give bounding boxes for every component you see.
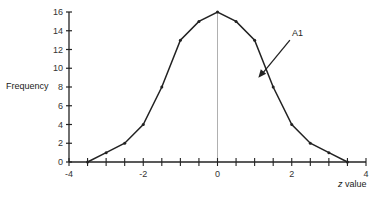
x-tick-label: 4 [363, 169, 368, 179]
data-point [123, 142, 126, 145]
y-tick-label: 14 [53, 26, 63, 36]
x-axis-label: z value [337, 179, 367, 189]
data-point [86, 161, 89, 164]
y-tick-label: 6 [58, 101, 63, 111]
annotation-arrow-shaft [262, 40, 290, 74]
y-tick-label: 16 [53, 7, 63, 17]
data-point [290, 123, 293, 126]
y-tick-label: 12 [53, 45, 63, 55]
x-axis-ticks: -4-2024 [65, 158, 369, 179]
data-point [253, 39, 256, 42]
x-axis-label-rest: value [343, 179, 367, 189]
x-tick-label: 2 [289, 169, 294, 179]
y-tick-label: 0 [58, 157, 63, 167]
data-point [235, 20, 238, 23]
data-point [272, 86, 275, 89]
data-point [179, 39, 182, 42]
data-point [105, 151, 108, 154]
annotation-label: A1 [292, 28, 303, 38]
x-tick-label: -2 [139, 169, 147, 179]
y-tick-label: 8 [58, 82, 63, 92]
y-tick-label: 2 [58, 138, 63, 148]
annotation-a1: A1 [258, 28, 303, 78]
data-point [197, 20, 200, 23]
x-tick-label: 0 [215, 169, 220, 179]
data-point [160, 86, 163, 89]
data-point [142, 123, 145, 126]
y-axis-ticks: 0246810121416 [53, 7, 72, 167]
data-point [346, 161, 349, 164]
y-axis-label: Frequency [6, 81, 49, 91]
data-point [327, 151, 330, 154]
x-tick-label: -4 [65, 169, 73, 179]
y-tick-label: 4 [58, 120, 63, 130]
chart: 0246810121416 -4-2024 A1 Frequency z val… [0, 0, 374, 197]
y-tick-label: 10 [53, 63, 63, 73]
data-point [309, 142, 312, 145]
data-point [216, 11, 219, 14]
